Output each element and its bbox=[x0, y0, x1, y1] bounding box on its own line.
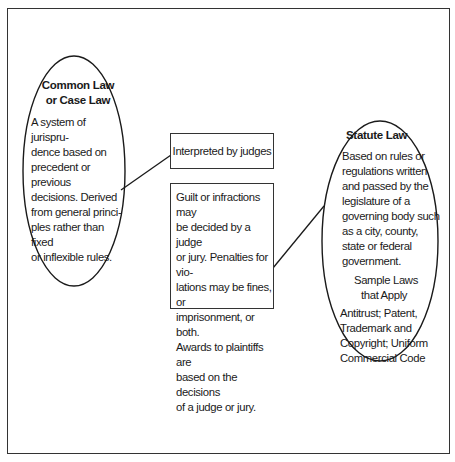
common-law-title-line1: Common Law bbox=[31, 78, 125, 93]
sample-laws-heading-line1: Sample Laws bbox=[354, 273, 442, 288]
text-line: be decided by a judge bbox=[176, 220, 274, 250]
text-line: of a judge or jury. bbox=[176, 400, 274, 415]
common-law-title-line2: or Case Law bbox=[31, 93, 125, 108]
statute-law-title: Statute Law bbox=[342, 128, 442, 143]
text-line: as a city, county, bbox=[342, 224, 442, 239]
sample-laws-heading-line2: that Apply bbox=[354, 288, 442, 303]
text-line: legislature of a bbox=[342, 194, 442, 209]
text-line: Commercial Code bbox=[340, 351, 442, 366]
text-line: or inflexible rules. bbox=[31, 250, 125, 265]
penalties-box: Guilt or infractions may be decided by a… bbox=[170, 183, 274, 309]
text-line: governing body such bbox=[342, 209, 442, 224]
text-line: precedent or previous bbox=[31, 160, 125, 190]
text-line: imprisonment, or both. bbox=[176, 310, 274, 340]
text-line: dence based on bbox=[31, 145, 125, 160]
sample-laws-list: Antitrust; Patent, Trademark and Copyrig… bbox=[340, 306, 442, 366]
statute-law-content: Statute Law Based on rules or regulation… bbox=[342, 128, 442, 366]
text-line: ples rather than fixed bbox=[31, 220, 125, 250]
text-line: based on the decisions bbox=[176, 370, 274, 400]
text-line: state or federal bbox=[342, 239, 442, 254]
common-law-description: A system of jurispru- dence based on pre… bbox=[31, 115, 125, 265]
text-line: Trademark and bbox=[340, 321, 442, 336]
text-line: regulations written bbox=[342, 164, 442, 179]
text-line: or jury. Penalties for vio- bbox=[176, 250, 274, 280]
text-line: Awards to plaintiffs are bbox=[176, 340, 274, 370]
common-law-content: Common Law or Case Law A system of juris… bbox=[31, 78, 125, 265]
connector-common-to-interpreted bbox=[121, 155, 171, 190]
text-line: and passed by the bbox=[342, 179, 442, 194]
text-line: lations may be fines, or bbox=[176, 280, 274, 310]
text-line: Guilt or infractions may bbox=[176, 190, 274, 220]
text-line: Based on rules or bbox=[342, 149, 442, 164]
connector-penalties-to-statute bbox=[273, 206, 324, 268]
interpreted-by-judges-label: Interpreted by judges bbox=[171, 144, 273, 159]
text-line: Copyright; Uniform bbox=[340, 336, 442, 351]
text-line: from general princi- bbox=[31, 205, 125, 220]
text-line: A system of jurispru- bbox=[31, 115, 125, 145]
interpreted-by-judges-box: Interpreted by judges bbox=[170, 133, 274, 169]
sample-laws-heading: Sample Laws that Apply bbox=[342, 273, 442, 303]
common-law-title: Common Law or Case Law bbox=[31, 78, 125, 108]
text-line: Antitrust; Patent, bbox=[340, 306, 442, 321]
text-line: decisions. Derived bbox=[31, 190, 125, 205]
penalties-text: Guilt or infractions may be decided by a… bbox=[176, 190, 274, 415]
statute-law-description: Based on rules or regulations written an… bbox=[342, 149, 442, 269]
text-line: government. bbox=[342, 254, 442, 269]
